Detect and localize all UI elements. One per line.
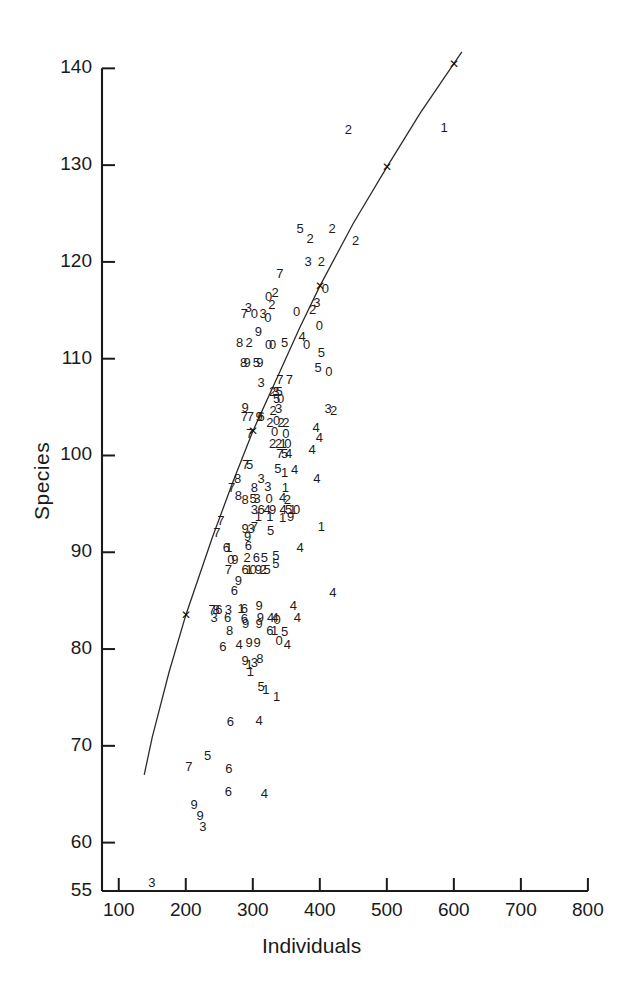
data-point: 9 [243, 356, 250, 369]
data-point: 3 [258, 376, 265, 389]
x-tick-label: 300 [223, 899, 283, 921]
data-point: 2 [245, 336, 252, 349]
data-point: 5 [296, 222, 303, 235]
data-point: 1 [281, 466, 288, 479]
data-point: 4 [312, 421, 319, 434]
data-point: 5 [318, 346, 325, 359]
data-point: 6 [225, 785, 232, 798]
data-point: 0 [251, 307, 258, 320]
data-point: 5 [281, 336, 288, 349]
data-point: 5 [204, 749, 211, 762]
data-point: 7 [276, 373, 283, 386]
data-point: 0 [303, 338, 310, 351]
data-point: 6 [219, 640, 226, 653]
data-point: 2 [329, 222, 336, 235]
data-point: 2 [345, 123, 352, 136]
data-point: 6 [224, 611, 231, 624]
data-point: 5 [261, 551, 268, 564]
curve-x-marker: ✕ [382, 161, 392, 173]
x-tick-label: 700 [491, 899, 551, 921]
data-point: 9 [256, 356, 263, 369]
x-axis-title: Individuals [262, 934, 361, 958]
data-point: 5 [281, 625, 288, 638]
data-point: 4 [296, 541, 303, 554]
y-tick-label: 130 [40, 153, 92, 175]
data-point: 9 [245, 636, 252, 649]
data-point: 4 [291, 463, 298, 476]
y-tick-label: 80 [40, 637, 92, 659]
data-point: 4 [272, 611, 279, 624]
data-point: 4 [284, 638, 291, 651]
y-tick-label: 140 [40, 56, 92, 78]
data-point: 1 [318, 520, 325, 533]
data-point: 4 [329, 586, 336, 599]
x-tick-label: 100 [89, 899, 149, 921]
data-point: 4 [261, 787, 268, 800]
data-point: 6 [253, 551, 260, 564]
data-point: 3 [260, 307, 267, 320]
data-point: 0 [325, 365, 332, 378]
curve-x-marker: ✕ [181, 609, 191, 621]
data-point: 1 [282, 481, 289, 494]
data-point: 8 [236, 336, 243, 349]
data-point: 9 [257, 611, 264, 624]
data-point: 7 [185, 760, 192, 773]
data-point: 4 [255, 714, 262, 727]
curve-x-marker: ✕ [315, 280, 325, 292]
x-tick-label: 400 [290, 899, 350, 921]
x-tick-label: 600 [424, 899, 484, 921]
curve-x-marker: ✕ [248, 425, 258, 437]
data-point: 8 [235, 489, 242, 502]
data-point: 4 [290, 599, 297, 612]
data-point: 7 [276, 267, 283, 280]
data-point: 8 [234, 472, 241, 485]
data-point: 0 [269, 338, 276, 351]
data-point: 6 [241, 612, 248, 625]
data-point: 3 [258, 472, 265, 485]
data-point: 7 [286, 373, 293, 386]
data-point: 1 [225, 541, 232, 554]
data-point: 6 [225, 762, 232, 775]
data-point: 9 [255, 599, 262, 612]
y-tick-label: 110 [40, 347, 92, 369]
x-tick-label: 500 [357, 899, 417, 921]
data-point: 5 [267, 524, 274, 537]
data-point: 5 [272, 557, 279, 570]
data-point: 5 [246, 458, 253, 471]
data-point: 3 [199, 820, 206, 833]
data-point: 4 [308, 443, 315, 456]
data-point: 5 [314, 361, 321, 374]
y-tick-label: 90 [40, 540, 92, 562]
data-point: 8 [241, 493, 248, 506]
data-point: 9 [253, 636, 260, 649]
data-point: 8 [256, 652, 263, 665]
data-point: 2 [352, 234, 359, 247]
data-point: 1 [247, 665, 254, 678]
data-point: 2 [243, 551, 250, 564]
data-point: 2 [282, 416, 289, 429]
data-point: 3 [313, 296, 320, 309]
data-point: 9 [241, 401, 248, 414]
curve-x-marker: ✕ [449, 58, 459, 70]
y-axis-title: Species [30, 442, 54, 520]
species-individuals-scatter-plot: 3756649936415191381649940589961047863163… [0, 0, 639, 987]
data-point: 4 [235, 638, 242, 651]
data-point: 2 [272, 286, 279, 299]
y-tick-label: 55 [40, 879, 92, 901]
y-tick-label: 60 [40, 831, 92, 853]
data-point: 3 [211, 611, 218, 624]
data-point: 3 [148, 876, 155, 889]
fitted-curve [144, 52, 462, 775]
data-point: 8 [226, 624, 233, 637]
y-tick-label: 70 [40, 734, 92, 756]
data-point: 0 [293, 305, 300, 318]
x-tick-label: 200 [156, 899, 216, 921]
data-point: 3 [264, 480, 271, 493]
data-point: 6 [258, 410, 265, 423]
axis-layer [0, 0, 639, 987]
data-point: 7 [217, 514, 224, 527]
data-point: 6 [227, 715, 234, 728]
data-point: 4 [313, 472, 320, 485]
data-point: 1 [440, 121, 447, 134]
data-point: 1 [262, 683, 269, 696]
